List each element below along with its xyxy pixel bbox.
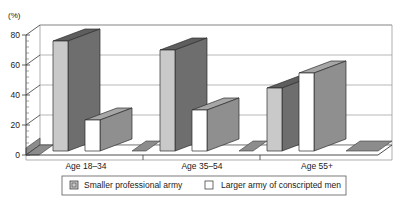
legend-item-smaller-professional-army[interactable]: Smaller professional army xyxy=(70,180,183,190)
chart-canvas: 80 60 40 20 0 (%) xyxy=(0,0,402,207)
category-label-age-35-54: Age 35–54 xyxy=(181,161,222,171)
y-axis-unit-label: (%) xyxy=(8,11,21,20)
category-label-age-18-34: Age 18–34 xyxy=(65,161,106,171)
bar-side-face xyxy=(314,61,346,151)
bar-front-face xyxy=(160,50,175,151)
y-tick-connector-20 xyxy=(26,115,40,125)
y-tick-connector-60 xyxy=(26,55,40,65)
y-tick-label-60: 60 xyxy=(11,60,21,70)
y-tick-connector-40 xyxy=(26,85,40,95)
y-tick-label-0: 0 xyxy=(15,150,20,160)
y-axis xyxy=(22,25,40,155)
bar-larger-conscripted-army-age-55-plus xyxy=(299,61,346,151)
bar-chart-figure: 80 60 40 20 0 (%) xyxy=(0,0,402,207)
white-square-icon xyxy=(205,181,213,189)
gray-square-icon xyxy=(70,181,78,189)
y-tick-connector-80 xyxy=(26,25,40,35)
legend-label-larger-conscripted-army: Larger army of conscripted men xyxy=(221,180,341,190)
category-label-age-55-plus: Age 55+ xyxy=(301,161,333,171)
chart-legend: Smaller professional army Larger army of… xyxy=(62,176,346,195)
bar-front-face xyxy=(192,110,207,151)
y-tick-label-40: 40 xyxy=(11,90,21,100)
legend-item-larger-conscripted-army[interactable]: Larger army of conscripted men xyxy=(205,180,341,190)
bar-front-face xyxy=(299,73,314,151)
bar-front-face xyxy=(267,88,282,151)
bar-front-face xyxy=(53,41,68,151)
bar-front-face xyxy=(85,120,100,151)
y-tick-label-20: 20 xyxy=(11,120,21,130)
legend-label-smaller-professional-army: Smaller professional army xyxy=(84,180,183,190)
y-tick-label-80: 80 xyxy=(11,30,21,40)
